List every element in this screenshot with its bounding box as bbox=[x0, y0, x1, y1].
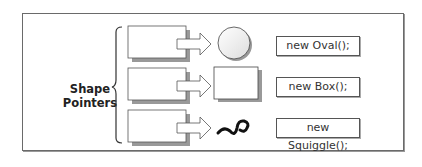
oval-shape bbox=[218, 27, 250, 59]
label-new-squiggle: new Squiggle(); bbox=[276, 118, 360, 138]
squiggle-shape bbox=[218, 121, 248, 134]
label-new-oval: new Oval(); bbox=[276, 36, 360, 56]
box-shape bbox=[214, 67, 258, 99]
label-new-box: new Box(); bbox=[276, 77, 360, 97]
brace-icon bbox=[112, 27, 122, 143]
